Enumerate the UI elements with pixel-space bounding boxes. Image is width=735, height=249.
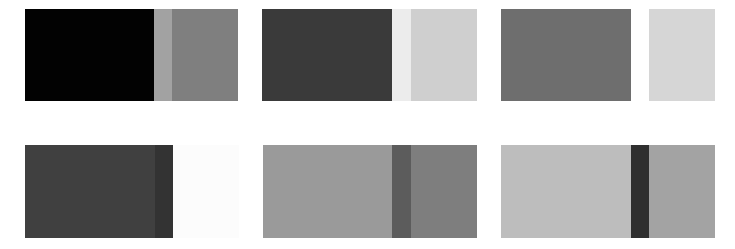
right-block	[649, 9, 715, 101]
left-block	[25, 9, 154, 101]
left-block	[501, 145, 631, 238]
swatch-panel-1	[25, 9, 238, 101]
swatch-panel-3	[501, 9, 715, 101]
middle-band	[154, 9, 172, 101]
left-block	[262, 9, 392, 101]
left-block	[501, 9, 631, 101]
swatch-panel-6	[501, 145, 715, 238]
right-block	[172, 9, 238, 101]
right-block	[173, 145, 239, 238]
swatch-panel-2	[262, 9, 477, 101]
swatch-panel-4	[25, 145, 239, 238]
middle-band	[392, 145, 411, 238]
right-block	[411, 145, 477, 238]
left-block	[263, 145, 392, 238]
swatch-panel-5	[263, 145, 477, 238]
right-block	[649, 145, 715, 238]
middle-band	[631, 145, 649, 238]
middle-band	[392, 9, 411, 101]
right-block	[411, 9, 477, 101]
middle-band	[155, 145, 173, 238]
left-block	[25, 145, 155, 238]
middle-band	[631, 9, 649, 101]
